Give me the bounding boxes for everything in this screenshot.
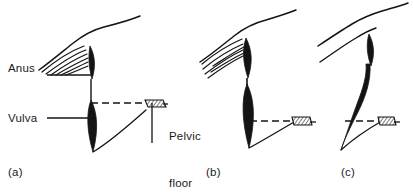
pelvic-floor-label-line1: Pelvic (169, 129, 201, 145)
panel-label-a: (a) (8, 166, 23, 178)
figure-drawing (0, 0, 413, 192)
figure-background (0, 0, 413, 192)
anus-label: Anus (8, 61, 35, 77)
pelvic-floor-label-line2: floor (169, 176, 201, 192)
pelvic-floor-hatch-a (145, 100, 166, 107)
panel-label-c: (c) (341, 166, 355, 178)
pelvic-floor-hatch-c (378, 117, 396, 125)
pelvic-floor-label: Pelvic floor (169, 98, 201, 192)
vulva-label: Vulva (8, 111, 37, 127)
panel-label-b: (b) (206, 166, 221, 178)
pelvic-floor-hatch-b (292, 117, 312, 125)
anatomical-figure: Anus Vulva Pelvic floor (a) (b) (c) (0, 0, 413, 192)
